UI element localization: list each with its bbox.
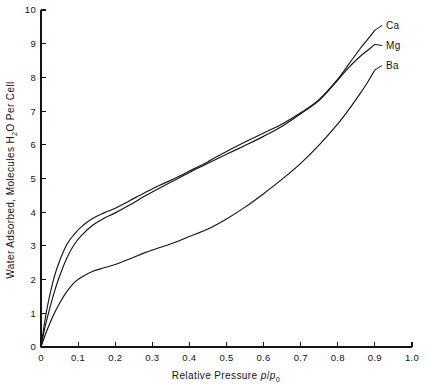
y-tick-label: 7: [30, 106, 36, 117]
x-tick-label: 0: [38, 352, 44, 363]
y-tick-label: 6: [30, 139, 36, 150]
y-axis-ticks: [41, 10, 46, 347]
x-tick-label: 0.4: [182, 352, 196, 363]
y-tick-label: 10: [25, 4, 36, 15]
x-tick-label: 0.3: [145, 352, 159, 363]
y-tick-label: 1: [30, 308, 36, 319]
leader-line-ba: [375, 66, 382, 70]
x-tick-label: 0.1: [71, 352, 85, 363]
adsorption-isotherm-chart: 012345678910 00.10.20.30.40.50.60.70.80.…: [0, 0, 427, 384]
x-tick-label: 0.2: [108, 352, 122, 363]
series-label-mg: Mg: [386, 40, 401, 51]
y-tick-label: 9: [30, 38, 36, 49]
y-tick-label: 0: [30, 341, 36, 352]
series-label-ca: Ca: [386, 20, 400, 31]
y-tick-label: 2: [30, 274, 36, 285]
figure-container: 012345678910 00.10.20.30.40.50.60.70.80.…: [0, 0, 427, 384]
y-tick-label: 4: [30, 207, 36, 218]
y-tick-label: 5: [30, 173, 36, 184]
x-tick-label: 1.0: [405, 352, 419, 363]
x-tick-label: 0.5: [219, 352, 233, 363]
series-label-ba: Ba: [386, 60, 399, 71]
leader-line-ca: [375, 26, 382, 31]
x-tick-label: 0.6: [257, 352, 271, 363]
x-axis-title: Relative Pressure p/p0: [172, 370, 280, 384]
y-axis-tick-labels: 012345678910: [25, 4, 36, 352]
y-tick-label: 3: [30, 240, 36, 251]
x-tick-label: 0.8: [331, 352, 345, 363]
x-axis-ticks: [41, 342, 412, 347]
x-tick-label: 0.7: [294, 352, 308, 363]
leader-line-mg: [375, 44, 382, 45]
series-labels-group: CaMgBa: [375, 20, 401, 71]
y-axis-title: Water Adsorbed, Molecules H2O Per Cell: [5, 81, 19, 278]
x-tick-label: 0.9: [368, 352, 382, 363]
data-curves-group: [41, 30, 375, 347]
y-tick-label: 8: [30, 72, 36, 83]
curve-ba: [41, 70, 375, 347]
curve-ca: [41, 30, 375, 347]
curve-mg: [41, 44, 375, 347]
x-axis-tick-labels: 00.10.20.30.40.50.60.70.80.91.0: [38, 352, 419, 363]
